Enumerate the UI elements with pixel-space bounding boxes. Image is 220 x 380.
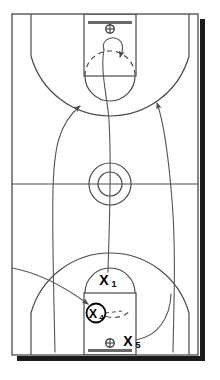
player-x5-number: 5 (135, 340, 140, 350)
basketball-play-diagram: X 1 X 4 X 5 (0, 0, 220, 380)
player-marker-x4[interactable]: X 4 (87, 304, 106, 323)
player-x4-letter: X (89, 307, 97, 321)
player-x1-number: 1 (111, 279, 116, 289)
top-backboard (88, 21, 132, 24)
court-svg: X 1 X 4 X 5 (0, 0, 220, 380)
bottom-backboard (88, 349, 132, 352)
player-x1-letter: X (99, 272, 109, 288)
player-x4-number: 4 (99, 313, 104, 322)
player-x5-letter: X (123, 333, 133, 349)
